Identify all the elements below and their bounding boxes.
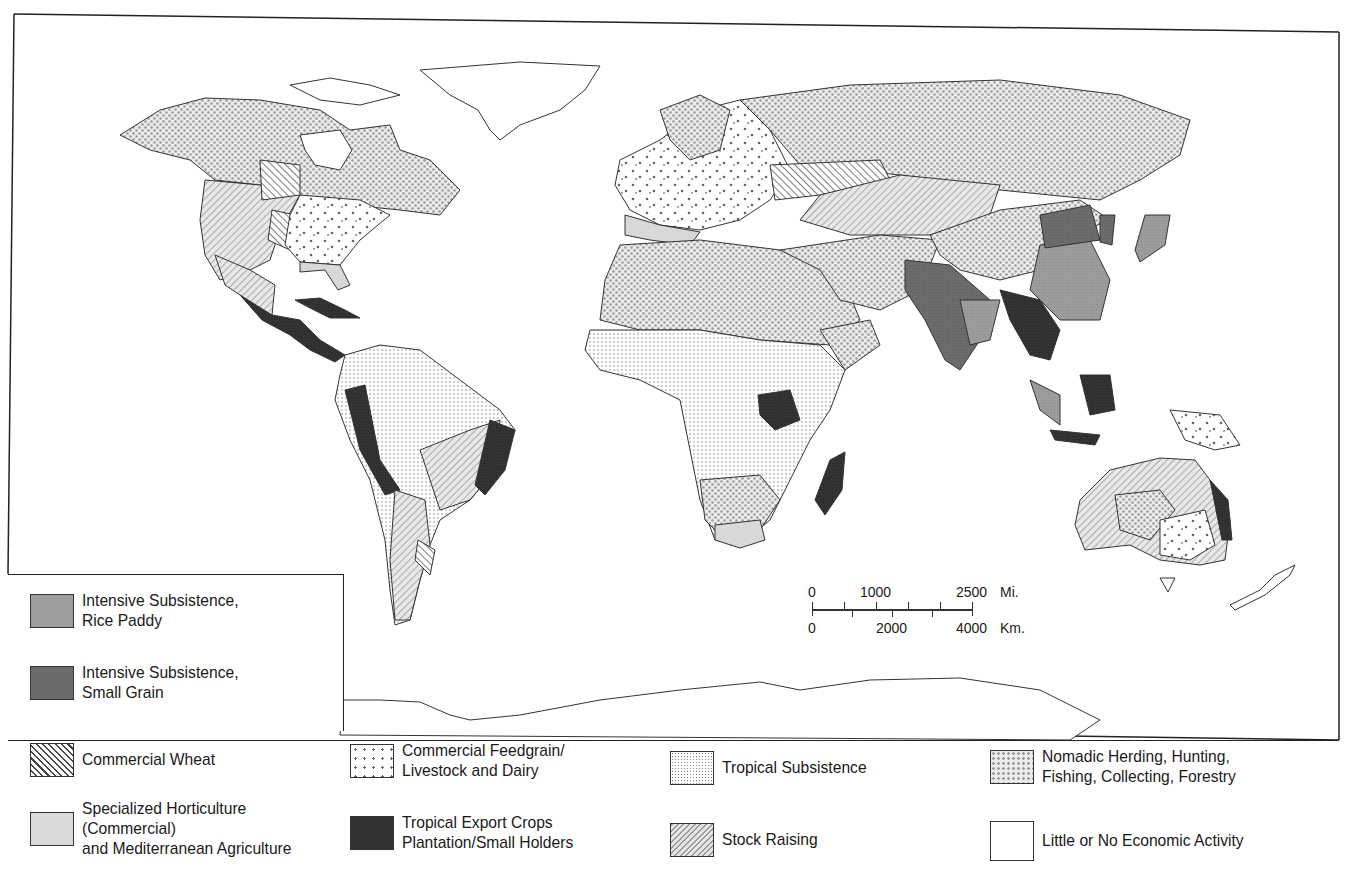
scale-mi-1000: 1000: [860, 584, 891, 600]
swatch-small-grain: [30, 666, 74, 700]
scale-km-4000: 4000: [956, 620, 987, 636]
map-frame-left: [8, 14, 14, 574]
swatch-nomadic: [990, 750, 1034, 784]
legend-item-little-none: Little or No Economic Activity: [990, 821, 1261, 861]
legend-item-commercial-wheat: Commercial Wheat: [30, 743, 227, 777]
scale-km-0: 0: [808, 620, 816, 636]
legend-label: Intensive Subsistence, Small Grain: [82, 663, 239, 703]
legend-item-stock-raising: Stock Raising: [670, 823, 826, 857]
legend-label: Little or No Economic Activity: [1042, 831, 1244, 851]
legend-label: Commercial Wheat: [82, 750, 215, 770]
legend-item-nomadic: Nomadic Herding, Hunting, Fishing, Colle…: [990, 747, 1253, 787]
swatch-horticulture: [30, 812, 74, 846]
legend-item-tropical-subsistence: Tropical Subsistence: [670, 751, 879, 785]
swatch-commercial-wheat: [30, 743, 74, 777]
scale-mi-0: 0: [808, 584, 816, 600]
swatch-little-none: [990, 821, 1034, 861]
new-zealand: [1230, 565, 1295, 610]
scale-mi-unit: Mi.: [1000, 584, 1019, 600]
swatch-tropical-export: [350, 816, 394, 850]
legend-label: Tropical Export Crops Plantation/Small H…: [402, 813, 573, 853]
swatch-stock-raising: [670, 823, 714, 857]
legend-inset: Intensive Subsistence, Rice Paddy Intens…: [8, 574, 344, 731]
legend-item-small-grain: Intensive Subsistence, Small Grain: [30, 663, 252, 703]
swatch-feedgrain: [350, 744, 394, 778]
scale-mi-2500: 2500: [956, 584, 987, 600]
legend-item-rice-paddy: Intensive Subsistence, Rice Paddy: [30, 591, 252, 631]
legend-label: Stock Raising: [722, 830, 818, 850]
legend-label: Tropical Subsistence: [722, 758, 867, 778]
legend-label: Nomadic Herding, Hunting, Fishing, Colle…: [1042, 747, 1236, 787]
legend-item-horticulture: Specialized Horticulture (Commercial) an…: [30, 799, 310, 859]
legend-item-tropical-export: Tropical Export Crops Plantation/Small H…: [350, 813, 588, 853]
legend-item-feedgrain: Commercial Feedgrain/ Livestock and Dair…: [350, 741, 579, 781]
madagascar: [815, 452, 845, 515]
legend-label: Intensive Subsistence, Rice Paddy: [82, 591, 239, 631]
legend-label: Commercial Feedgrain/ Livestock and Dair…: [402, 741, 565, 781]
swatch-rice-paddy: [30, 594, 74, 628]
scale-km-unit: Km.: [1000, 620, 1025, 636]
greenland: [420, 62, 600, 140]
scale-bar: 0 1000 2500 Mi. 0 2000 4000 Km.: [806, 584, 1046, 644]
japan: [1135, 215, 1170, 262]
map-frame-top: [14, 14, 1339, 32]
legend-bottom: Commercial Wheat Specialized Horticultur…: [8, 740, 1339, 877]
legend-label: Specialized Horticulture (Commercial) an…: [82, 799, 292, 859]
scale-km-2000: 2000: [876, 620, 907, 636]
swatch-tropical-subsistence: [670, 751, 714, 785]
new-guinea: [1170, 410, 1240, 450]
antarctica: [340, 678, 1100, 740]
